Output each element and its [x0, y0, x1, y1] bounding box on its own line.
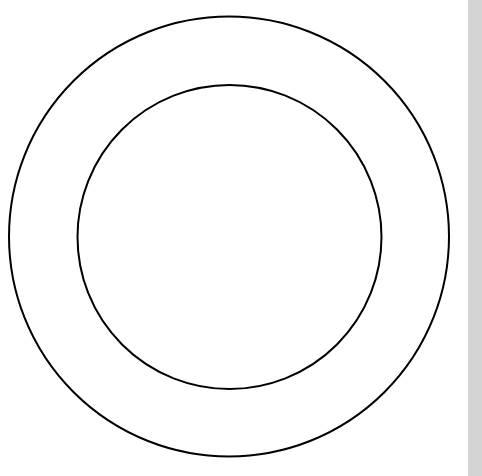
vertical-scrollbar-track[interactable]	[468, 0, 482, 476]
drawing-canvas[interactable]	[0, 0, 468, 476]
concentric-circles-figure	[0, 0, 468, 476]
vertical-scrollbar-thumb[interactable]	[468, 0, 482, 476]
app-root	[0, 0, 482, 476]
faint-text-artifact	[16, 0, 60, 9]
inner-circle	[78, 85, 382, 389]
outer-circle	[9, 17, 449, 457]
